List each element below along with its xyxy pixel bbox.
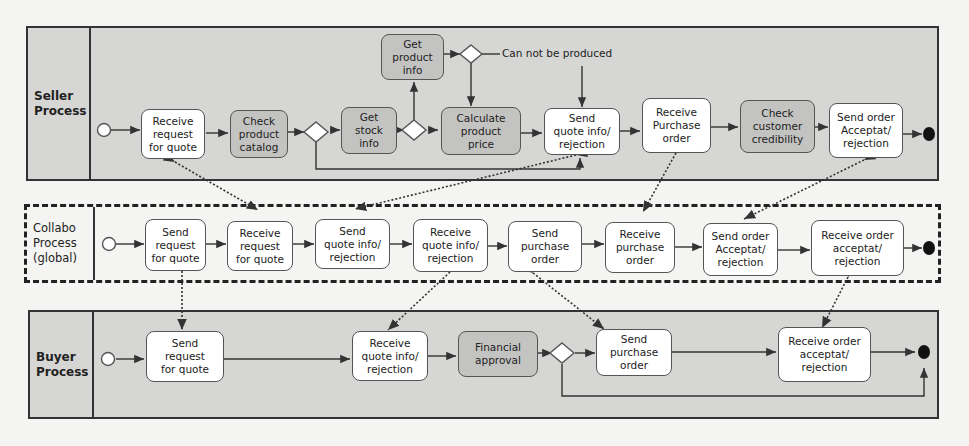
task-label: Receive Purchase order: [653, 106, 701, 145]
task-label: Send quote info/ rejection: [554, 112, 611, 151]
task-label: Send purchase order: [610, 333, 658, 372]
task-receive-request-for-quote[interactable]: Receive request for quote: [141, 109, 205, 159]
task-buyer-financial-approval[interactable]: Financial approval: [458, 331, 538, 377]
task-label: Get stock info: [355, 111, 383, 150]
task-check-customer-credibility[interactable]: Check customer credibility: [740, 100, 815, 153]
task-collabo-send-quote-info-rejection[interactable]: Send quote info/ rejection: [315, 219, 390, 269]
task-label: Receive quote info/ rejection: [362, 337, 419, 376]
buyer-pool-label-text: Buyer Process: [36, 350, 89, 380]
task-collabo-send-order-acceptat-rejection[interactable]: Send order Acceptat/ rejection: [703, 223, 778, 276]
task-collabo-send-request-for-quote[interactable]: Send request for quote: [145, 219, 206, 271]
task-label: Receive request for quote: [236, 227, 284, 266]
task-receive-purchase-order[interactable]: Receive Purchase order: [642, 98, 711, 153]
note-can-not-be-produced: Can not be produced: [502, 47, 612, 59]
task-send-quote-info-rejection[interactable]: Send quote info/ rejection: [544, 108, 620, 155]
task-label: Receive order acceptat/ rejection: [788, 335, 860, 374]
task-label: Receive purchase order: [616, 228, 664, 267]
task-label: Send request for quote: [151, 226, 199, 265]
task-buyer-receive-order-acceptat-rejection[interactable]: Receive order acceptat/ rejection: [778, 327, 871, 382]
task-buyer-receive-quote-info-rejection[interactable]: Receive quote info/ rejection: [352, 331, 428, 381]
task-calculate-product-price[interactable]: Calculate product price: [441, 107, 521, 155]
task-collabo-send-purchase-order[interactable]: Send purchase order: [508, 221, 582, 272]
seller-pool-label: Seller Process: [28, 28, 91, 179]
task-collabo-receive-purchase-order[interactable]: Receive purchase order: [605, 222, 675, 273]
task-label: Send order Acceptat/ rejection: [712, 230, 770, 269]
task-label: Receive order acceptat/ rejection: [821, 229, 893, 268]
task-buyer-send-request-for-quote[interactable]: Send request for quote: [146, 331, 224, 382]
buyer-pool-label: Buyer Process: [30, 312, 94, 417]
collabo-pool-label-text: Collabo Process (global): [33, 221, 77, 266]
task-label: Check product catalog: [239, 115, 279, 154]
seller-pool-label-text: Seller Process: [34, 89, 87, 119]
task-label: Receive request for quote: [149, 115, 197, 154]
task-label: Financial approval: [475, 341, 521, 367]
task-check-product-catalog[interactable]: Check product catalog: [230, 110, 288, 158]
task-label: Send order Acceptat/ rejection: [837, 111, 895, 150]
task-get-product-info[interactable]: Get product info: [381, 34, 444, 80]
collabo-pool-label: Collabo Process (global): [27, 207, 95, 280]
task-label: Calculate product price: [456, 112, 505, 151]
task-label: Check customer credibility: [752, 107, 804, 146]
task-label: Get product info: [392, 38, 432, 77]
task-get-stock-info[interactable]: Get stock info: [341, 107, 397, 154]
task-collabo-receive-order-acceptat-rejection[interactable]: Receive order acceptat/ rejection: [811, 220, 904, 276]
task-buyer-send-purchase-order[interactable]: Send purchase order: [596, 329, 672, 376]
task-label: Send purchase order: [521, 227, 569, 266]
task-label: Receive quote info/ rejection: [422, 226, 479, 265]
task-collabo-receive-request-for-quote[interactable]: Receive request for quote: [227, 221, 293, 271]
task-label: Send request for quote: [161, 337, 209, 376]
task-label: Send quote info/ rejection: [324, 225, 381, 264]
task-collabo-receive-quote-info-rejection[interactable]: Receive quote info/ rejection: [413, 219, 488, 272]
task-send-order-acceptat-rejection[interactable]: Send order Acceptat/ rejection: [829, 103, 903, 158]
